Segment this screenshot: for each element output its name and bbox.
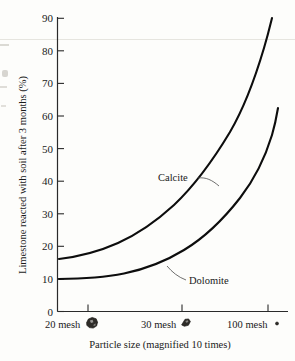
- y-tick-label-60: 60: [42, 110, 54, 122]
- y-axis-ticks: [58, 18, 65, 311]
- x-tick-label-20-mesh: 20 mesh: [45, 319, 81, 330]
- y-tick-label-80: 80: [42, 45, 54, 57]
- y-tick-label-90: 90: [42, 12, 54, 24]
- x-tick-label-100-mesh: 100 mesh: [227, 319, 268, 330]
- calcite-curve: [59, 18, 272, 259]
- y-tick-label-10: 10: [42, 273, 54, 285]
- y-axis-title: Limestone reacted with soil after 3 mont…: [17, 76, 29, 274]
- x-tick-label-30-mesh: 30 mesh: [141, 319, 177, 330]
- particle-medium-icon: [182, 319, 191, 326]
- y-tick-label-40: 40: [42, 175, 54, 187]
- chart-figure: 0 10 20 30 40 50 60 70 80 90 Limestone r…: [0, 0, 295, 361]
- data-curves: [59, 18, 278, 279]
- x-axis-title: Particle size (magnified 10 times): [89, 339, 231, 351]
- calcite-leader-line: [198, 178, 219, 186]
- y-tick-label-70: 70: [42, 77, 54, 89]
- dolomite-leader-line: [167, 266, 186, 280]
- x-axis: 20 mesh 30 mesh 100 mesh Particle size (…: [45, 305, 288, 352]
- y-axis: 0 10 20 30 40 50 60 70 80 90 Limestone r…: [17, 12, 64, 317]
- particle-small-icon: [276, 322, 279, 325]
- particle-large-icon: [87, 317, 98, 328]
- calcite-label: Calcite: [158, 172, 188, 183]
- y-tick-label-20: 20: [42, 240, 54, 252]
- y-axis-tick-labels: 0 10 20 30 40 50 60 70 80 90: [42, 12, 54, 317]
- y-tick-label-30: 30: [42, 208, 54, 220]
- dolomite-annotation: Dolomite: [167, 266, 229, 286]
- y-tick-label-50: 50: [42, 143, 54, 155]
- dolomite-label: Dolomite: [189, 275, 229, 286]
- y-tick-label-0: 0: [48, 306, 54, 318]
- calcite-annotation: Calcite: [158, 172, 219, 186]
